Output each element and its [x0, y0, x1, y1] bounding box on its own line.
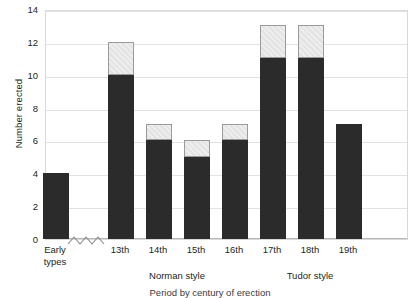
y-axis-tick-label: 2	[0, 202, 38, 212]
gridline	[46, 11, 407, 12]
y-axis-title: Number erected	[13, 44, 24, 184]
gridline	[46, 110, 407, 111]
x-axis-tick-label: 19th	[318, 244, 378, 256]
x-axis-tick-label: Earlytypes	[25, 244, 85, 267]
y-axis-tick-label: 4	[0, 169, 38, 179]
bar	[146, 124, 172, 239]
gridline	[46, 77, 407, 78]
bar	[184, 140, 210, 239]
x-axis-group-label: Norman style	[117, 270, 237, 281]
bar-segment-dark	[222, 140, 248, 239]
bar-segment-light	[184, 140, 210, 156]
bar-segment-light	[298, 25, 324, 58]
bar-segment-dark	[336, 124, 362, 239]
y-axis-tick-label: 12	[0, 38, 38, 48]
plot-area	[45, 10, 408, 240]
bar	[260, 25, 286, 239]
bar-segment-light	[222, 124, 248, 140]
bar-segment-dark	[43, 173, 69, 239]
bar-segment-light	[146, 124, 172, 140]
x-axis-group-label: Tudor style	[250, 270, 370, 281]
bar-segment-dark	[108, 75, 134, 239]
bar	[222, 124, 248, 239]
bar-segment-dark	[298, 58, 324, 239]
bar	[336, 124, 362, 239]
y-axis-tick-label: 10	[0, 71, 38, 81]
bar-segment-light	[260, 25, 286, 58]
y-axis-tick-label: 14	[0, 5, 38, 15]
bar-segment-dark	[184, 157, 210, 239]
bar-segment-dark	[260, 58, 286, 239]
bar-segment-light	[108, 42, 134, 75]
gridline	[46, 44, 407, 45]
y-axis-tick-label: 8	[0, 104, 38, 114]
bar	[298, 25, 324, 239]
bar	[43, 173, 69, 239]
bar	[108, 42, 134, 239]
y-axis-tick-label: 6	[0, 136, 38, 146]
x-axis-title: Period by century of erection	[0, 287, 420, 298]
bar-segment-dark	[146, 140, 172, 239]
